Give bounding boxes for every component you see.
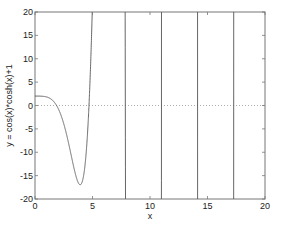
- y-tick-label: -5: [25, 124, 33, 134]
- plot-area: [35, 0, 265, 222]
- y-tick-label: 0: [28, 101, 33, 111]
- x-tick-label: 0: [32, 201, 37, 211]
- x-tick-label: 20: [260, 201, 270, 211]
- y-tick-label: -20: [20, 194, 33, 204]
- y-axis-label: y = cos(x)*cosh(x)+1: [4, 64, 14, 147]
- y-tick-label: -10: [20, 147, 33, 157]
- y-tick-label: -15: [20, 171, 33, 181]
- x-axis-label: x: [148, 211, 153, 221]
- x-tick-label: 5: [90, 201, 95, 211]
- y-tick-label: 10: [23, 54, 33, 64]
- y-tick-label: 5: [28, 77, 33, 87]
- x-tick-label: 10: [145, 201, 155, 211]
- y-tick-label: 20: [23, 7, 33, 17]
- y-tick-label: 15: [23, 30, 33, 40]
- chart: 05101520-20-15-10-505101520 x y = cos(x)…: [0, 0, 282, 227]
- x-tick-label: 15: [202, 201, 212, 211]
